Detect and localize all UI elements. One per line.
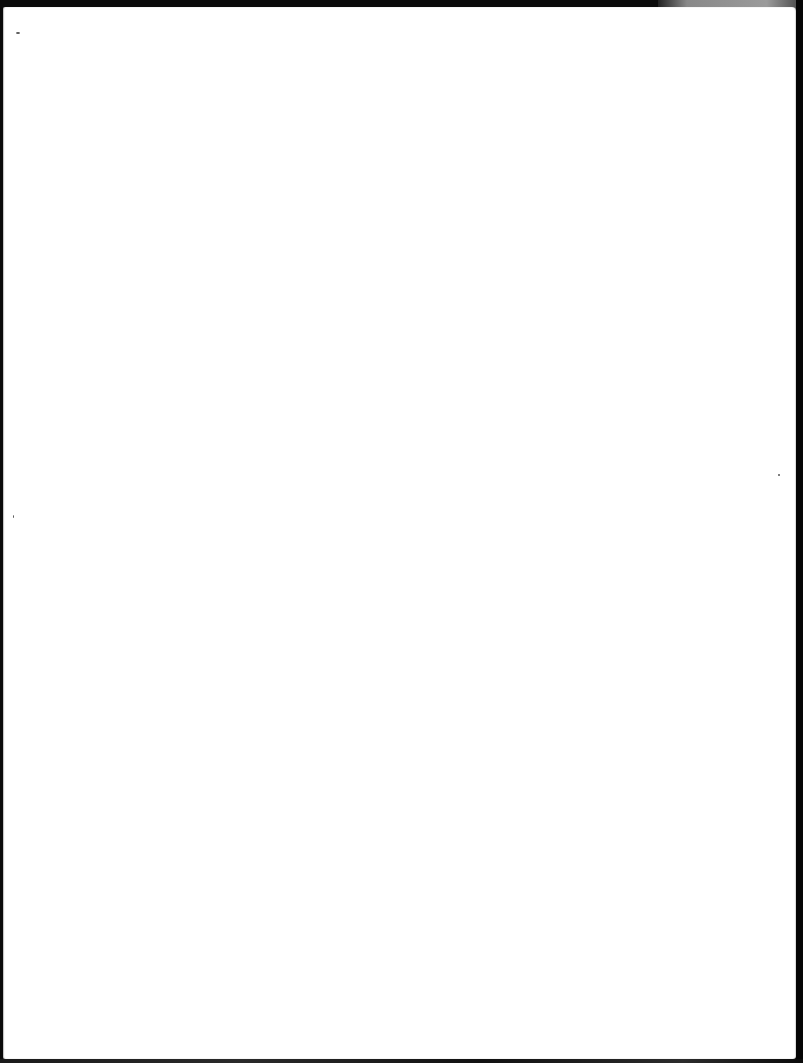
scanned-page-frame	[0, 0, 803, 1063]
blank-page	[3, 7, 796, 1059]
speck-right-margin	[778, 474, 780, 476]
scan-right-edge	[796, 0, 803, 1063]
speck-top-left	[16, 32, 20, 34]
scan-bottom-edge	[0, 1059, 803, 1063]
speck-left-margin	[13, 515, 14, 518]
